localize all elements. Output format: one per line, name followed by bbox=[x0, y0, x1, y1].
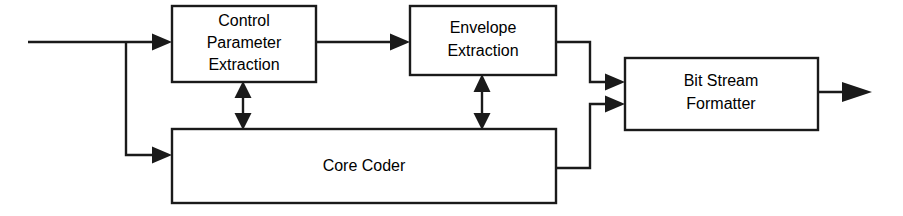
bit-stream-formatter-label-line-2: Formatter bbox=[686, 95, 756, 112]
connection-core-to-formatter bbox=[556, 96, 625, 169]
envelope-extraction-box[interactable] bbox=[410, 6, 556, 75]
connection-input-signal bbox=[28, 34, 172, 51]
block-core-coder[interactable]: Core Coder bbox=[172, 129, 556, 203]
diagram-canvas: Control Parameter Extraction Envelope Ex… bbox=[0, 0, 903, 216]
arrowhead-input-to-core-coder bbox=[152, 147, 172, 164]
bit-stream-formatter-label-line-1: Bit Stream bbox=[684, 72, 759, 89]
connection-formatter-output bbox=[818, 82, 872, 102]
control-parameter-extraction-label-line-2: Parameter bbox=[207, 34, 282, 51]
connection-cpe-core-bidirectional bbox=[235, 81, 252, 130]
envelope-extraction-label-line-1: Envelope bbox=[450, 19, 517, 36]
control-parameter-extraction-label-line-1: Control bbox=[218, 12, 270, 29]
arrowhead-up-cpe bbox=[235, 81, 252, 98]
arrowhead-down-core-coder-left bbox=[235, 113, 252, 130]
block-control-parameter-extraction[interactable]: Control Parameter Extraction bbox=[172, 6, 316, 82]
connection-cpe-to-envelope bbox=[316, 34, 410, 51]
core-coder-label: Core Coder bbox=[323, 157, 406, 174]
block-diagram: Control Parameter Extraction Envelope Ex… bbox=[0, 0, 903, 216]
control-parameter-extraction-label-line-3: Extraction bbox=[208, 56, 279, 73]
bit-stream-formatter-box[interactable] bbox=[625, 58, 818, 130]
arrowhead-down-core-coder-right bbox=[474, 113, 491, 130]
envelope-extraction-label-line-2: Extraction bbox=[447, 42, 518, 59]
arrowhead-input-to-cpe bbox=[152, 34, 172, 51]
arrowhead-core-to-formatter bbox=[605, 96, 625, 113]
arrowhead-up-envelope bbox=[474, 74, 491, 92]
arrowhead-envelope-to-formatter bbox=[605, 74, 625, 91]
connection-envelope-core-bidirectional bbox=[474, 74, 491, 130]
arrowhead-formatter-output bbox=[842, 82, 872, 102]
block-bit-stream-formatter[interactable]: Bit Stream Formatter bbox=[625, 58, 818, 130]
block-envelope-extraction[interactable]: Envelope Extraction bbox=[410, 6, 556, 75]
connection-input-branch-to-core-coder bbox=[126, 42, 172, 164]
arrowhead-cpe-to-envelope bbox=[390, 34, 410, 51]
connection-envelope-to-formatter bbox=[556, 42, 625, 91]
